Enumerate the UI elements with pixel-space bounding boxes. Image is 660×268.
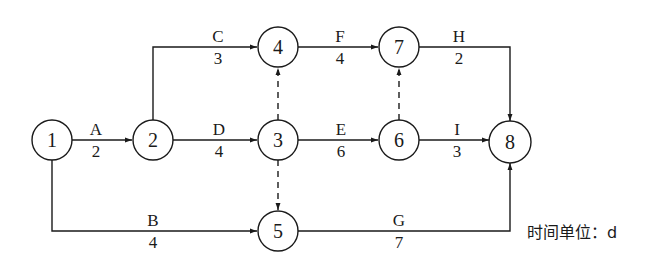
arrow-H bbox=[419, 47, 510, 121]
node-label-6: 6 bbox=[394, 129, 404, 151]
activity-duration-H: 2 bbox=[455, 49, 464, 68]
activity-name-A: A bbox=[90, 120, 103, 139]
arrow-C bbox=[153, 47, 257, 120]
time-unit-note: 时间单位：d bbox=[527, 219, 617, 243]
activity-name-F: F bbox=[335, 27, 344, 46]
activity-duration-F: 4 bbox=[336, 49, 345, 68]
node-label-8: 8 bbox=[505, 131, 515, 153]
node-label-5: 5 bbox=[273, 220, 283, 242]
activity-name-I: I bbox=[454, 120, 460, 139]
activity-duration-E: 6 bbox=[337, 142, 346, 161]
node-label-4: 4 bbox=[273, 36, 283, 58]
activity-name-D: D bbox=[213, 120, 225, 139]
activity-duration-A: 2 bbox=[92, 142, 101, 161]
activity-name-E: E bbox=[336, 120, 346, 139]
activity-name-B: B bbox=[147, 211, 158, 230]
node-label-2: 2 bbox=[148, 129, 158, 151]
activity-duration-D: 4 bbox=[215, 142, 224, 161]
activity-duration-I: 3 bbox=[453, 142, 462, 161]
node-label-1: 1 bbox=[47, 129, 57, 151]
activity-name-H: H bbox=[453, 27, 465, 46]
activity-name-G: G bbox=[393, 211, 405, 230]
node-label-7: 7 bbox=[394, 36, 404, 58]
activity-duration-C: 3 bbox=[214, 49, 223, 68]
activity-name-C: C bbox=[212, 27, 223, 46]
node-label-3: 3 bbox=[273, 129, 283, 151]
activity-duration-G: 7 bbox=[395, 233, 404, 252]
activity-duration-B: 4 bbox=[149, 233, 158, 252]
